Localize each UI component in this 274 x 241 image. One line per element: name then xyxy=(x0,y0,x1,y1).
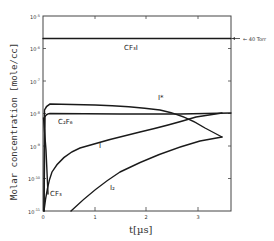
svg-text:3: 3 xyxy=(197,214,200,220)
x-tick-labels: 0 1 2 3 xyxy=(42,214,200,220)
annotation-40-torr: ← 40 Torr xyxy=(232,36,267,42)
y-tick-labels: 10-5 10-6 10-7 10-8 10-9 10-10 10-11 xyxy=(28,14,40,215)
svg-text:2: 2 xyxy=(145,214,148,220)
svg-text:← 40 Torr: ← 40 Torr xyxy=(243,36,267,42)
svg-text:10-11: 10-11 xyxy=(28,208,40,215)
x-axis-title: t[µs] xyxy=(129,224,153,235)
svg-text:10-8: 10-8 xyxy=(30,111,40,118)
curve-c2f6 xyxy=(44,113,231,211)
label-cf3: CF₃ xyxy=(50,190,62,198)
svg-text:10-9: 10-9 xyxy=(30,143,40,150)
svg-text:0: 0 xyxy=(42,214,45,220)
label-c2f6: C₂F₆ xyxy=(58,118,73,126)
svg-text:10-6: 10-6 xyxy=(30,46,40,53)
label-i: I xyxy=(99,142,101,150)
curve-i xyxy=(44,113,222,211)
svg-text:1: 1 xyxy=(94,214,97,220)
svg-text:10-10: 10-10 xyxy=(28,176,40,183)
curve-i2 xyxy=(71,137,222,211)
label-i-star: I* xyxy=(158,94,164,102)
label-i2: I₂ xyxy=(110,184,115,192)
y-axis-title: Molar concentration [mole/cc] xyxy=(9,43,19,200)
concentration-chart: 10-5 10-6 10-7 10-8 10-9 10-10 10-11 0 1… xyxy=(0,0,274,241)
label-cf3i: CF₃I xyxy=(124,44,138,52)
svg-text:10-7: 10-7 xyxy=(30,78,40,85)
svg-text:10-5: 10-5 xyxy=(30,14,40,21)
